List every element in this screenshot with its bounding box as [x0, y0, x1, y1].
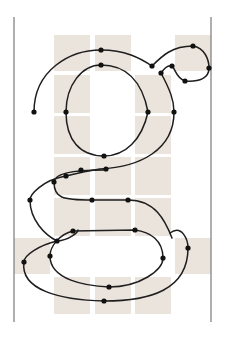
anchor-point: [103, 166, 108, 171]
grid-cell: [135, 157, 171, 195]
anchor-point: [63, 173, 68, 178]
anchor-point: [125, 197, 130, 202]
anchor-point: [54, 238, 59, 243]
letterform-diagram: [0, 0, 226, 337]
anchor-point: [185, 245, 190, 250]
anchor-point: [190, 43, 195, 48]
anchor-point: [145, 109, 150, 114]
anchor-point: [98, 62, 103, 67]
anchor-point: [106, 284, 111, 289]
anchor-point: [70, 228, 75, 233]
anchor-point: [63, 109, 68, 114]
anchor-point: [21, 259, 26, 264]
anchor-point: [206, 65, 211, 70]
anchor-point: [27, 197, 32, 202]
grid-cell: [175, 238, 211, 274]
grid-cell: [54, 75, 90, 113]
anchor-point: [47, 253, 52, 258]
grid-cell: [54, 35, 90, 71]
anchor-point: [101, 298, 106, 303]
anchor-point: [89, 197, 94, 202]
anchor-point: [31, 109, 36, 114]
grid-cell: [95, 157, 131, 195]
grid-cell: [135, 116, 171, 154]
anchor-point: [98, 47, 103, 52]
anchor-point: [158, 70, 163, 75]
grid-cell: [54, 116, 90, 154]
grid-cell: [175, 35, 211, 71]
anchor-point: [51, 179, 56, 184]
anchor-point: [169, 63, 174, 68]
anchor-point: [160, 255, 165, 260]
anchor-point: [132, 227, 137, 232]
anchor-point: [149, 63, 154, 68]
grid-cells: [14, 35, 211, 314]
anchor-point: [171, 109, 176, 114]
anchor-point: [182, 78, 187, 83]
anchor-point: [78, 167, 83, 172]
grid-cell: [95, 277, 131, 314]
grid-cell: [135, 277, 171, 314]
grid-cell: [14, 238, 50, 274]
anchor-point: [101, 153, 106, 158]
